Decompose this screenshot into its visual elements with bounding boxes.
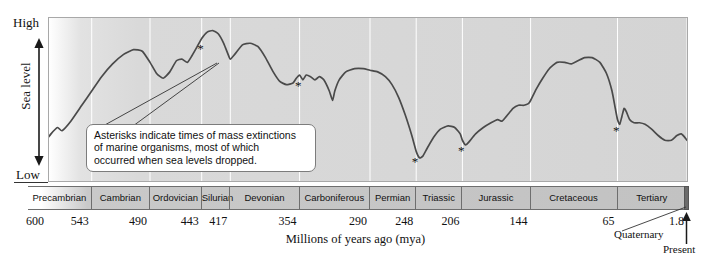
callout-leader-lines [86, 60, 226, 128]
x-tick-543: 543 [33, 214, 89, 229]
annotation-line-1: Asterisks indicate times of mass extinct… [94, 129, 308, 141]
annotation-line-3: occurred when sea levels dropped. [94, 154, 308, 166]
period-segment-precambrian: Precambrian [28, 187, 91, 209]
quaternary-label: Quaternary [614, 228, 663, 240]
period-segment-permian: Permian [369, 187, 415, 209]
present-arrow-icon [681, 212, 692, 244]
y-axis-title: Sea level [18, 51, 34, 121]
period-segment-carboniferous: Carboniferous [299, 187, 369, 209]
y-axis-high-label: High [13, 15, 39, 31]
period-segment-devonian: Devonian [229, 187, 298, 209]
x-tick-206: 206 [403, 214, 459, 229]
period-segment-cretaceous: Cretaceous [530, 187, 617, 209]
x-tick-417: 417 [171, 214, 227, 229]
x-tick-354: 354 [241, 214, 297, 229]
y-axis-low-rule [14, 182, 48, 183]
x-tick-65: 65 [559, 214, 615, 229]
annotation-line-2: of marine organisms, most of which [94, 141, 308, 153]
geologic-period-bar: PrecambrianCambrianOrdovicianSilurianDev… [28, 186, 688, 210]
period-segment-silurian: Silurian [201, 187, 230, 209]
sea-level-arrow-icon [33, 38, 45, 166]
annotation-callout: Asterisks indicate times of mass extinct… [86, 124, 316, 172]
period-segment-ordovician: Ordovician [149, 187, 201, 209]
extinction-asterisk: * [412, 155, 419, 168]
x-axis-title: Millions of years ago (mya) [0, 232, 711, 247]
x-tick-490: 490 [91, 214, 147, 229]
extinction-asterisk: * [458, 144, 465, 157]
period-segment-triassic: Triassic [415, 187, 461, 209]
extinction-asterisk: * [295, 79, 302, 92]
figure-root: High Low Sea level ***** Asterisks indic… [0, 0, 711, 264]
period-segment-cambrian: Cambrian [91, 187, 149, 209]
extinction-asterisk: * [613, 124, 620, 137]
x-tick-144: 144 [472, 214, 528, 229]
present-label: Present [663, 243, 695, 255]
y-axis-low-label: Low [16, 167, 40, 183]
period-segment-jurassic: Jurassic [461, 187, 529, 209]
extinction-asterisk: * [197, 42, 204, 55]
